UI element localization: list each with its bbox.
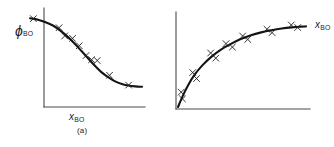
data-point-marker [213, 55, 219, 61]
data-point-marker [194, 76, 200, 82]
y-axis-label-a-symbol: ϕ [15, 23, 23, 39]
data-point-marker [229, 44, 235, 50]
data-point-marker [94, 58, 100, 64]
panel-caption-a: (a) [77, 126, 87, 135]
figure-two-panel-plots: ϕBO xBO (a) xBO (LB)BO (b) [0, 0, 334, 147]
y-axis-label-b-subscript: BO [320, 24, 330, 31]
panel-a: ϕBO xBO (a) [0, 0, 160, 147]
data-point-marker [178, 89, 184, 95]
plot-b-canvas [160, 0, 334, 147]
data-point-marker [83, 53, 89, 59]
y-axis-label-a-subscript: BO [23, 30, 33, 37]
panel-b: xBO (LB)BO (b) [160, 0, 334, 147]
data-markers-b [178, 22, 300, 102]
data-curve-b [178, 26, 306, 107]
x-axis-label-a-subscript: BO [74, 116, 84, 123]
x-axis-label-a: xBO [69, 111, 85, 122]
y-axis-label-a: ϕBO [15, 22, 33, 36]
y-axis-label-b: xBO [315, 19, 331, 30]
data-curve-a [30, 18, 142, 86]
data-point-marker [190, 70, 196, 76]
